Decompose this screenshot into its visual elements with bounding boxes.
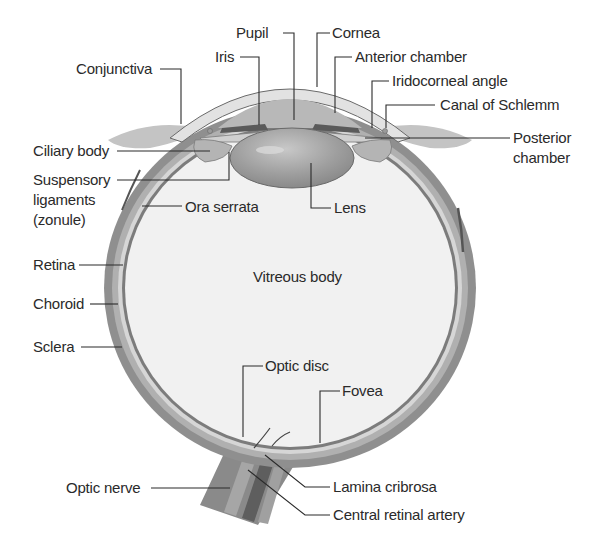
label-lamina-cribrosa: Lamina cribrosa (333, 478, 437, 495)
label-suspensory-line3: (zonule) (33, 211, 86, 228)
label-conjunctiva: Conjunctiva (76, 60, 152, 77)
label-posterior-chamber-line1: Posterior (513, 129, 571, 146)
label-vitreous-body: Vitreous body (253, 268, 342, 285)
label-sclera: Sclera (33, 338, 74, 355)
label-ciliary-body: Ciliary body (33, 142, 109, 159)
label-ora-serrata: Ora serrata (185, 198, 259, 215)
label-optic-disc: Optic disc (265, 357, 329, 374)
label-lens: Lens (334, 199, 366, 216)
label-choroid: Choroid (33, 295, 84, 312)
label-central-retinal-artery: Central retinal artery (333, 506, 465, 523)
label-retina: Retina (33, 256, 75, 273)
eye-anatomy-diagram: Pupil Iris Cornea Anterior chamber Conju… (0, 0, 601, 541)
label-optic-nerve: Optic nerve (66, 479, 141, 496)
label-canal-of-schlemm: Canal of Schlemm (440, 96, 559, 113)
label-iris: Iris (215, 48, 234, 65)
label-iridocorneal-angle: Iridocorneal angle (392, 72, 508, 89)
label-cornea: Cornea (332, 24, 380, 41)
label-fovea: Fovea (342, 382, 383, 399)
label-posterior-chamber-line2: chamber (513, 149, 570, 166)
label-anterior-chamber: Anterior chamber (355, 48, 467, 65)
label-suspensory-line2: ligaments (33, 191, 95, 208)
label-pupil: Pupil (236, 24, 268, 41)
lens-shape (230, 128, 354, 188)
label-suspensory-line1: Suspensory (33, 171, 110, 188)
